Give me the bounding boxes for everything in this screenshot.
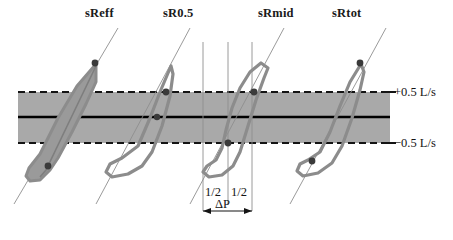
label-srmid: sRmid	[258, 6, 294, 21]
label-srtot: sRtot	[332, 6, 361, 21]
label-sreff: sReff	[85, 6, 114, 21]
delta-p-label: ΔP	[215, 197, 230, 212]
fraction-label-right: 1/2	[231, 185, 247, 200]
marker-sr05-upper	[163, 89, 170, 96]
delta-p-arrow-left	[203, 208, 211, 214]
marker-srmid-upper	[251, 89, 258, 96]
marker-srtot-lower	[309, 158, 316, 165]
marker-srmid-lower	[225, 140, 232, 147]
marker-sr05-mid	[154, 114, 160, 120]
axis-label-positive-half: +0.5 L/s	[394, 85, 436, 100]
marker-sreff-upper	[92, 60, 99, 67]
label-sr05: sR0.5	[163, 6, 194, 21]
figure-canvas: sReff sR0.5 sRmid sRtot +0.5 L/s −0.5 L/…	[0, 0, 453, 240]
marker-sreff-lower	[45, 163, 52, 170]
marker-srtot-upper	[357, 60, 364, 67]
axis-label-negative-half: −0.5 L/s	[394, 136, 436, 151]
delta-p-arrow-right	[244, 208, 252, 214]
